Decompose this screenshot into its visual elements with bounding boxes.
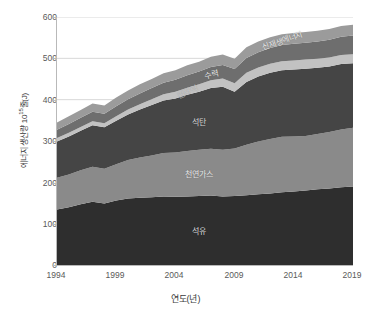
area-series-svg xyxy=(57,17,353,265)
y-tick-400: 400 xyxy=(17,95,57,105)
y-tick-300: 300 xyxy=(17,136,57,146)
y-axis-title: 에너지 생산량 1015줄(J) xyxy=(18,46,29,216)
x-tick-2019: 2019 xyxy=(329,270,371,280)
y-tick-600: 600 xyxy=(17,12,57,22)
y-tick-0: 0 xyxy=(17,260,57,270)
x-tick-1999: 1999 xyxy=(92,270,138,280)
x-tick-1994: 1994 xyxy=(33,270,79,280)
y-tick-100: 100 xyxy=(17,219,57,229)
x-tick-2004: 2004 xyxy=(151,270,197,280)
stacked-area-chart: 에너지 생산량 1015줄(J) 600 500 400 300 200 100… xyxy=(0,0,371,311)
y-axis-title-exponent: 15 xyxy=(18,108,24,114)
x-tick-2009: 2009 xyxy=(211,270,257,280)
x-tick-2014: 2014 xyxy=(270,270,316,280)
y-tick-200: 200 xyxy=(17,178,57,188)
x-axis-title: 연도(년) xyxy=(0,292,371,305)
plot-area: 신재생에너지 수력 원자력 석탄 천연가스 석유 xyxy=(56,17,353,266)
y-tick-500: 500 xyxy=(17,53,57,63)
